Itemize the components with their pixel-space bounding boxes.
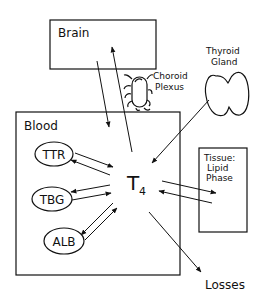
tissue-label-line3: Phase	[206, 173, 233, 183]
arrows	[71, 47, 216, 272]
thyroid-gland: Thyroid Gland	[205, 46, 249, 116]
thyroid-label-line2: Gland	[211, 57, 237, 67]
arrow-tbg-to-t4	[72, 193, 111, 200]
losses-label: Losses	[205, 278, 245, 292]
choroid-plexus-icon	[124, 75, 153, 111]
binding-protein-alb: ALB	[44, 228, 84, 254]
choroid-label-line1: Choroid	[153, 71, 188, 81]
thyroid-shape-icon	[205, 73, 248, 116]
tbg-label: TBG	[39, 193, 65, 207]
arrow-brain-to-blood	[97, 61, 109, 127]
binding-protein-ttr: TTR	[35, 142, 73, 166]
arrow-t4-to-ttr	[71, 160, 110, 175]
arrow-ttr-to-t4	[75, 153, 113, 167]
blood-label: Blood	[24, 119, 58, 133]
ttr-label: TTR	[42, 148, 66, 162]
t4-label-subscript: 4	[139, 185, 146, 198]
alb-label: ALB	[52, 235, 75, 249]
thyroid-label-line1: Thyroid	[205, 46, 240, 56]
tissue-label-line2: Lipid	[207, 163, 228, 173]
arrow-alb-to-t4	[85, 208, 117, 240]
brain-compartment: Brain	[50, 20, 156, 69]
arrow-t4-to-losses	[149, 212, 201, 272]
arrow-t4-to-alb	[81, 203, 113, 235]
t4-label-main: T	[126, 171, 140, 195]
tissue-label-line1: Tissue:	[203, 153, 235, 163]
t4-distribution-diagram: Brain Blood Tissue: Lipid Phase Thyroid …	[0, 0, 262, 301]
arrow-blood-to-brain	[112, 47, 132, 152]
arrow-t4-to-tbg	[71, 185, 110, 192]
choroid-plexus: Choroid Plexus	[124, 71, 188, 110]
t4-hormone: T 4	[126, 171, 146, 198]
choroid-label-line2: Plexus	[155, 82, 184, 92]
binding-protein-tbg: TBG	[32, 187, 72, 211]
brain-label: Brain	[58, 26, 89, 40]
arrow-tissue-to-t4	[159, 191, 212, 203]
tissue-lipid-phase-compartment: Tissue: Lipid Phase	[199, 148, 247, 232]
